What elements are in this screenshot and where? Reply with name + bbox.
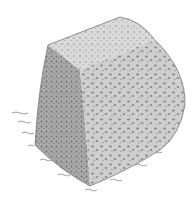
stone-drawing <box>0 0 194 204</box>
